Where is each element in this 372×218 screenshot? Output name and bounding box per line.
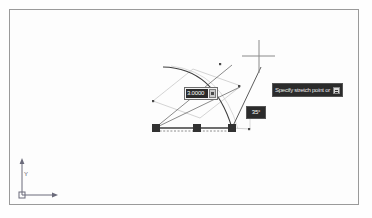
grip-right[interactable] <box>228 124 236 132</box>
grip-mid[interactable] <box>193 124 201 132</box>
ucs-icon <box>19 158 58 198</box>
snap-marker-lower-right <box>248 128 250 130</box>
command-prompt-tooltip[interactable]: Specify stretch point or <box>272 83 343 97</box>
options-menu-icon[interactable] <box>333 87 340 94</box>
command-prompt-text: Specify stretch point or <box>275 86 333 94</box>
dynamic-input-angle-field[interactable]: 35° <box>246 106 266 119</box>
dynamic-input-distance-field[interactable]: 3.0000 <box>184 87 218 100</box>
cad-geometry-layer <box>10 10 358 204</box>
ucs-y-axis-label: Y <box>24 171 28 178</box>
snap-marker-left <box>152 100 154 102</box>
cad-application-window: Y X 3.0000 35° Specify stretch point or <box>0 0 372 218</box>
crosshair-cursor <box>242 40 275 73</box>
grip-left[interactable] <box>152 124 160 132</box>
lock-icon[interactable] <box>209 89 216 98</box>
drawing-canvas[interactable]: Y X 3.0000 35° Specify stretch point or <box>9 9 359 205</box>
distance-value[interactable]: 3.0000 <box>186 89 208 98</box>
angle-value: 35° <box>252 109 260 116</box>
ucs-x-axis-label: X <box>53 204 57 205</box>
snap-marker-mid-right <box>238 85 240 87</box>
snap-marker-upper-right <box>219 63 221 65</box>
